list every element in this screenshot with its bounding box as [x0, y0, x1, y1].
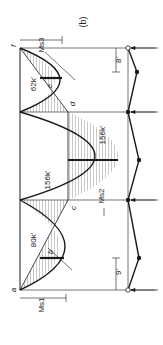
- label-b: b: [47, 250, 54, 254]
- label-e: e: [46, 84, 53, 88]
- label-156k-left: 156k': [43, 170, 52, 189]
- cable-node: [126, 198, 130, 202]
- cable-node: [135, 70, 139, 74]
- label-f: f: [9, 44, 18, 47]
- cable-end-top: [126, 46, 130, 50]
- moment-diagram: (b) f Ms3 62k' e d 8' 156k' 156k' c Ms2 …: [0, 0, 163, 345]
- cable-node: [126, 110, 130, 114]
- label-62k: 62k': [29, 76, 38, 91]
- cable-node: [137, 256, 141, 260]
- label-c: c: [69, 206, 78, 210]
- panel-label: (b): [78, 16, 88, 27]
- label-d: d: [68, 101, 77, 106]
- label-9ft: 9': [114, 269, 123, 275]
- cable-node: [137, 158, 141, 162]
- label-156k-right: 156k': [98, 125, 107, 144]
- span2-hatch: [68, 112, 118, 200]
- label-a: a: [9, 287, 18, 292]
- cable-polygon: [128, 48, 139, 290]
- label-8ft: 8': [114, 57, 123, 63]
- cable-end-bottom: [126, 288, 130, 292]
- label-ms1: Ms1: [37, 297, 46, 313]
- label-ms2: Ms2: [97, 188, 106, 204]
- label-ms3: Ms3: [37, 37, 46, 53]
- label-80k: 80k': [29, 232, 38, 247]
